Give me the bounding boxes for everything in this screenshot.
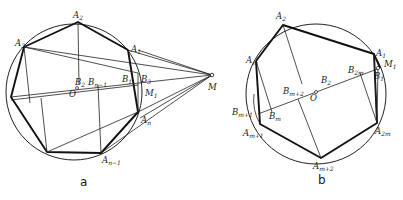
- caption-a: a: [80, 175, 87, 189]
- label-bm: Bm: [268, 111, 281, 122]
- label-a2m: A2m: [374, 126, 391, 137]
- line-bm2-am2: [298, 99, 321, 158]
- label-b2-b: B2: [320, 75, 331, 86]
- label-a3: A3: [14, 38, 25, 49]
- figure-b: A2 A1 M1 B1 B2m B2 Am Bm+2 O Bm+1 Bm Am+…: [231, 11, 397, 187]
- line-a2-b2: [78, 22, 79, 85]
- label-bm1: Bm+1: [231, 107, 253, 118]
- caption-b: b: [318, 173, 326, 187]
- label-o-b: O: [310, 93, 317, 103]
- label-am1: Am+1: [242, 128, 264, 139]
- label-o-a: O: [69, 89, 76, 99]
- label-an1: An−1: [101, 155, 121, 166]
- line-a3-down: [24, 47, 30, 103]
- label-b2: B2: [74, 77, 85, 88]
- label-b2m: B2m: [347, 65, 364, 76]
- label-a2: A2: [72, 10, 83, 21]
- label-m1-b: M1: [383, 59, 397, 70]
- line-a3-b3: [24, 47, 138, 73]
- figure-a: A2 A1 A3 B2 Bn−1 B1 B3 M1 An An−1 O M a: [6, 10, 217, 189]
- label-b1: B1: [121, 74, 132, 85]
- label-m: M: [207, 82, 217, 92]
- line-bn1-an1: [98, 85, 101, 153]
- label-a1: A1: [130, 44, 141, 55]
- point-m: [210, 73, 214, 77]
- label-bm2: Bm+2: [282, 86, 304, 97]
- label-bn1: Bn−1: [87, 77, 107, 88]
- label-an: An: [140, 115, 151, 126]
- line-diag: [47, 112, 138, 152]
- line-a3-m: [24, 47, 212, 75]
- label-a2-b: A2: [275, 11, 286, 22]
- label-a1-b: A1: [375, 48, 386, 59]
- label-b3: B3: [140, 74, 151, 85]
- point-m1-b: [376, 66, 379, 69]
- label-am: Am: [245, 55, 258, 66]
- line-a2-b2: [283, 25, 302, 84]
- line-diameter: [11, 75, 212, 97]
- label-m1: M1: [144, 88, 158, 99]
- diagram-canvas: A2 A1 A3 B2 Bn−1 B1 B3 M1 An An−1 O M a …: [0, 0, 403, 200]
- line-a1-a2m: [374, 54, 377, 123]
- line-an1-m: [101, 75, 212, 153]
- line-tangent-m: [138, 50, 212, 75]
